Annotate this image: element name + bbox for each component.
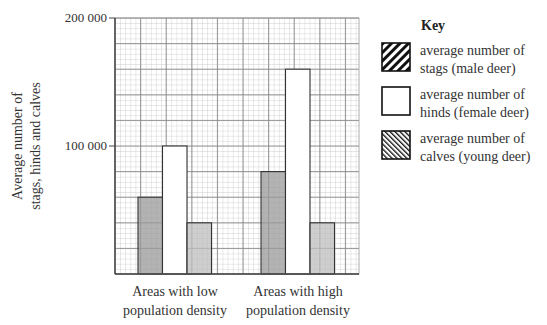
legend-hinds-line-2: hinds (female deer) <box>420 105 529 121</box>
y-tick-label: 100 000 <box>65 138 107 153</box>
bar <box>286 69 311 274</box>
category-label-low-line-2: population density <box>123 303 227 318</box>
category-label-low-line-1: Areas with low <box>132 284 218 299</box>
deer-bar-chart: 100 000200 000 Average number of stags, … <box>0 0 547 325</box>
legend: Key average number of stags (male deer) … <box>382 18 531 165</box>
hatch-forward-swatch-icon <box>382 43 410 71</box>
y-axis-label-line-2: stags, hinds and calves <box>28 82 43 210</box>
bar <box>163 146 188 274</box>
y-axis-label-line-1: Average number of <box>10 92 25 200</box>
legend-stags-line-2: stags (male deer) <box>420 61 516 77</box>
bar <box>138 197 163 274</box>
legend-stags-line-1: average number of <box>420 43 525 58</box>
bar <box>261 172 286 274</box>
legend-title: Key <box>421 18 445 33</box>
category-label-high-line-2: population density <box>246 303 350 318</box>
y-ticks: 100 000200 000 <box>65 10 115 153</box>
y-axis-label: Average number of stags, hinds and calve… <box>10 82 43 210</box>
y-tick-label: 200 000 <box>65 10 107 25</box>
legend-calves-line-1: average number of <box>420 131 525 146</box>
legend-item-hinds: average number of hinds (female deer) <box>382 87 529 121</box>
category-label-high-line-1: Areas with high <box>253 284 342 299</box>
legend-item-calves: average number of calves (young deer) <box>382 131 531 165</box>
hatch-back-swatch-icon <box>382 131 410 159</box>
bar <box>310 223 335 274</box>
legend-hinds-line-1: average number of <box>420 87 525 102</box>
x-category-labels: Areas with low population density Areas … <box>123 284 350 318</box>
bar <box>187 223 212 274</box>
plot-area: 100 000200 000 <box>65 10 359 274</box>
legend-item-stags: average number of stags (male deer) <box>382 43 525 77</box>
plain-swatch-icon <box>382 87 410 115</box>
legend-calves-line-2: calves (young deer) <box>420 149 531 165</box>
